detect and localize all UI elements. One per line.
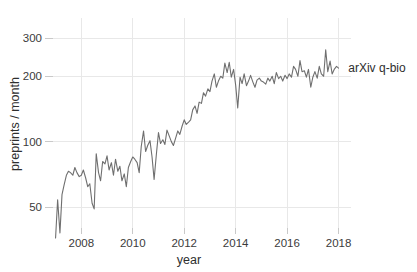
x-tick-label: 2008 [69, 237, 95, 249]
x-tick-label: 2016 [274, 237, 300, 249]
x-tick-labels: 200820102012201420162018 [69, 237, 352, 249]
y-gridlines [53, 38, 351, 207]
x-gridlines [81, 18, 338, 228]
y-axis-title: preprints / month [8, 77, 22, 171]
series-end-label: arXiv q-bio [348, 61, 406, 75]
chart-container: 50100200300 200820102012201420162018 arX… [0, 0, 417, 272]
x-tick-label: 2018 [326, 237, 352, 249]
y-tick-label: 50 [29, 201, 42, 213]
y-tick-label: 300 [23, 32, 42, 44]
x-tick-label: 2014 [223, 237, 249, 249]
y-tick-label: 100 [23, 136, 42, 148]
x-axis-title: year [177, 253, 201, 267]
line-chart: 50100200300 200820102012201420162018 arX… [0, 0, 417, 272]
x-tickmarks [81, 228, 338, 234]
series-line-arxiv-q-bio [56, 50, 339, 238]
y-tick-label: 200 [23, 70, 42, 82]
x-tick-label: 2012 [171, 237, 197, 249]
x-tick-label: 2010 [120, 237, 146, 249]
y-tick-labels: 50100200300 [23, 32, 42, 213]
y-tickmarks [45, 38, 53, 207]
